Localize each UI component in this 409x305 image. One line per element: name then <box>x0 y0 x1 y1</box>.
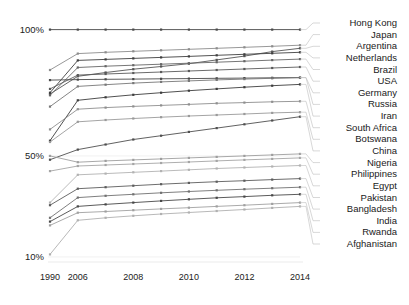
data-point-marker <box>271 67 273 69</box>
leader-line <box>300 84 320 116</box>
series-label: USA <box>377 75 397 86</box>
data-point-marker <box>216 167 218 169</box>
data-point-marker <box>216 160 218 162</box>
data-point-marker <box>160 162 162 164</box>
data-point-marker <box>49 204 51 206</box>
data-point-marker <box>77 212 79 214</box>
data-point-marker <box>105 51 107 53</box>
data-point-marker <box>132 163 134 165</box>
data-point-marker <box>77 29 79 31</box>
data-point-marker <box>105 186 107 188</box>
data-point-marker <box>188 161 190 163</box>
leader-line <box>300 194 320 220</box>
data-point-marker <box>188 157 190 159</box>
data-point-marker <box>77 174 79 176</box>
data-point-marker <box>243 196 245 198</box>
data-point-marker <box>105 164 107 166</box>
data-point-marker <box>160 104 162 106</box>
series-label: Brazil <box>373 64 397 75</box>
data-point-marker <box>105 58 107 60</box>
series-label: Hong Kong <box>349 17 397 28</box>
x-axis-tick-labels: 199020062008201020122014 <box>40 262 310 282</box>
series-line <box>50 101 300 129</box>
data-point-marker <box>77 149 79 151</box>
leader-line <box>300 52 320 58</box>
data-point-marker <box>216 69 218 71</box>
data-point-marker <box>216 54 218 56</box>
data-point-marker <box>105 160 107 162</box>
leader-line <box>300 179 320 198</box>
data-point-marker <box>188 169 190 171</box>
data-point-marker <box>271 45 273 47</box>
data-point-marker <box>271 194 273 196</box>
data-point-marker <box>49 253 51 255</box>
data-point-marker <box>216 88 218 90</box>
data-point-marker <box>132 185 134 187</box>
data-point-marker <box>188 55 190 57</box>
data-point-marker <box>216 59 218 61</box>
series-markers <box>49 29 301 256</box>
data-point-marker <box>49 106 51 108</box>
data-point-marker <box>105 217 107 219</box>
data-point-marker <box>243 68 245 70</box>
data-point-marker <box>271 112 273 114</box>
data-point-marker <box>160 78 162 80</box>
leader-line <box>300 35 320 46</box>
data-point-marker <box>132 215 134 217</box>
leader-line <box>300 187 320 209</box>
data-point-marker <box>160 158 162 160</box>
data-point-marker <box>160 208 162 210</box>
data-point-marker <box>271 101 273 103</box>
data-point-marker <box>77 59 79 61</box>
leader-line <box>300 206 320 244</box>
data-point-marker <box>188 48 190 50</box>
data-point-marker <box>105 96 107 98</box>
data-point-marker <box>132 171 134 173</box>
series-label: India <box>376 215 397 226</box>
series-label: Iran <box>381 110 397 121</box>
data-point-marker <box>132 105 134 107</box>
data-point-marker <box>243 113 245 115</box>
series-label: Botswana <box>355 133 397 144</box>
data-point-marker <box>188 182 190 184</box>
data-point-marker <box>243 102 245 104</box>
leader-line <box>300 158 320 174</box>
data-point-marker <box>188 62 190 64</box>
data-point-marker <box>105 203 107 205</box>
data-point-marker <box>105 210 107 212</box>
y-tick-label: 100% <box>20 24 45 35</box>
leader-line <box>300 59 320 69</box>
series-line <box>50 206 300 254</box>
data-point-marker <box>188 90 190 92</box>
data-point-marker <box>243 166 245 168</box>
data-point-marker <box>271 203 273 205</box>
data-point-marker <box>188 78 190 80</box>
data-point-marker <box>271 77 273 79</box>
data-point-marker <box>132 68 134 70</box>
data-point-marker <box>216 79 218 81</box>
data-point-marker <box>243 188 245 190</box>
data-point-marker <box>160 92 162 94</box>
data-point-marker <box>49 94 51 96</box>
series-label: Germany <box>358 87 397 98</box>
data-point-marker <box>216 29 218 31</box>
data-point-marker <box>216 197 218 199</box>
data-point-marker <box>132 209 134 211</box>
data-point-marker <box>77 188 79 190</box>
data-point-marker <box>49 88 51 90</box>
data-point-marker <box>132 202 134 204</box>
data-point-marker <box>49 128 51 130</box>
data-point-marker <box>105 29 107 31</box>
data-point-marker <box>271 179 273 181</box>
data-point-marker <box>216 205 218 207</box>
data-point-marker <box>77 161 79 163</box>
data-point-marker <box>77 99 79 101</box>
data-point-marker <box>49 159 51 161</box>
data-point-marker <box>243 53 245 55</box>
data-point-marker <box>188 211 190 213</box>
data-point-marker <box>216 47 218 49</box>
leader-line <box>300 166 320 186</box>
data-point-marker <box>271 29 273 31</box>
series-label: China <box>372 145 398 156</box>
leader-line <box>300 67 320 81</box>
